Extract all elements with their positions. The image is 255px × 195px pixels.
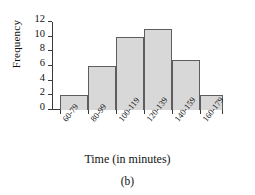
y-tick-label-6: 6: [29, 58, 45, 69]
y-tick-label-8: 8: [29, 43, 45, 54]
x-axis-tick-labels: 60-79 80-99 100-119 120-139 140-159 160-…: [52, 112, 227, 150]
histogram-figure: Frequency 0 2 4 6 8 10 12: [0, 0, 255, 195]
bar-series: [52, 22, 223, 110]
plot-area: 0 2 4 6 8 10 12: [52, 22, 222, 110]
figure-caption: (b): [0, 175, 255, 187]
y-tick-label-0: 0: [29, 102, 45, 113]
y-tick-label-2: 2: [29, 87, 45, 98]
y-tick-label-4: 4: [29, 73, 45, 84]
y-tick-label-10: 10: [29, 29, 45, 40]
y-axis-title: Frequency: [10, 4, 22, 84]
y-tick-label-12: 12: [29, 14, 45, 25]
x-axis-title: Time (in minutes): [0, 152, 255, 167]
